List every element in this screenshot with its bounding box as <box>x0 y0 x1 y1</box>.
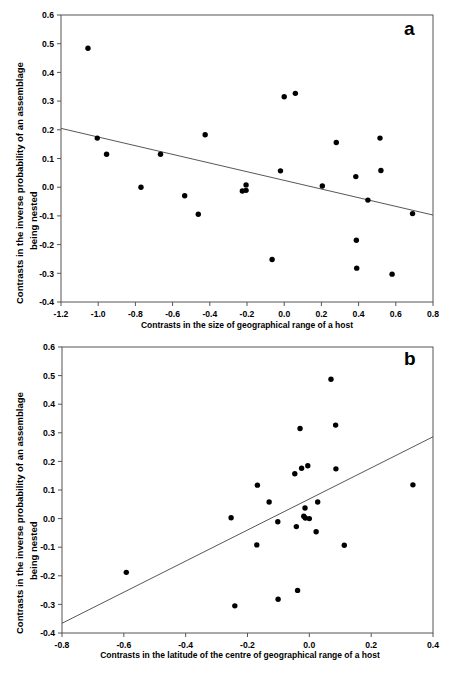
data-point <box>269 257 274 262</box>
data-point <box>232 603 237 608</box>
plot-frame <box>62 347 433 633</box>
data-point <box>275 597 280 602</box>
data-point <box>254 542 259 547</box>
data-point <box>294 524 299 529</box>
data-point <box>293 91 298 96</box>
panel-letter-b: b <box>404 348 416 370</box>
data-point <box>328 377 333 382</box>
y-tick-label: -0.4 <box>40 628 55 638</box>
data-point <box>202 132 207 137</box>
data-point <box>353 174 358 179</box>
data-points <box>85 46 415 277</box>
x-tick-label: 0.6 <box>390 309 402 319</box>
y-tick-label: 0.6 <box>42 10 54 20</box>
x-tick-label: -0.6 <box>165 309 180 319</box>
data-points <box>124 377 416 609</box>
data-point <box>282 94 287 99</box>
data-point <box>342 542 347 547</box>
x-tick-label: -0.2 <box>240 309 255 319</box>
data-point <box>389 271 394 276</box>
y-tick-label: -0.1 <box>39 211 54 221</box>
x-tick-label: -0.6 <box>116 640 131 650</box>
y-tick-label: 0.1 <box>42 154 54 164</box>
x-tick-label: 0.2 <box>365 640 377 650</box>
data-point <box>85 46 90 51</box>
y-axis-title-a-line2: being nested <box>28 191 39 250</box>
y-axis-title-b-line2: being nested <box>28 521 39 580</box>
regression-line <box>61 128 433 215</box>
data-point <box>313 529 318 534</box>
x-tick-label: -0.4 <box>202 309 217 319</box>
data-point <box>333 466 338 471</box>
y-axis-title-a-line1: Contrasts in the inverse probability of … <box>14 62 25 304</box>
data-point <box>365 197 370 202</box>
data-point <box>354 238 359 243</box>
data-point <box>302 505 307 510</box>
data-point <box>354 265 359 270</box>
data-point <box>299 466 304 471</box>
y-tick-label: 0.5 <box>43 371 55 381</box>
plot-frame <box>61 15 433 302</box>
y-tick-label: -0.3 <box>40 600 55 610</box>
x-axis-ticks: -1.2-1.0-0.8-0.6-0.4-0.20.00.20.40.60.8 <box>54 302 440 319</box>
y-tick-label: 0.4 <box>43 399 55 409</box>
y-tick-label: 0.3 <box>42 96 54 106</box>
data-point <box>410 482 415 487</box>
y-tick-label: -0.3 <box>39 269 54 279</box>
data-point <box>124 570 129 575</box>
y-tick-label: 0.0 <box>42 182 54 192</box>
data-point <box>378 168 383 173</box>
x-axis-ticks: -0.8-0.6-0.4-0.20.00.20.4 <box>55 633 440 650</box>
data-point <box>410 211 415 216</box>
data-point <box>315 499 320 504</box>
data-point <box>334 140 339 145</box>
data-point <box>266 499 271 504</box>
data-point <box>228 515 233 520</box>
data-point <box>333 422 338 427</box>
y-tick-label: 0.4 <box>42 68 54 78</box>
data-point <box>292 471 297 476</box>
data-point <box>278 168 283 173</box>
data-point <box>95 135 100 140</box>
data-point <box>240 188 245 193</box>
x-axis-title-b: Contrasts in the latitude of the centre … <box>40 650 440 660</box>
data-point <box>158 151 163 156</box>
x-tick-label: 0.2 <box>315 309 327 319</box>
y-tick-label: 0.1 <box>43 485 55 495</box>
y-tick-label: -0.4 <box>39 297 54 307</box>
y-tick-label: 0.2 <box>43 457 55 467</box>
data-point <box>255 482 260 487</box>
y-axis-ticks: -0.4-0.3-0.2-0.10.00.10.20.30.40.50.6 <box>40 342 62 638</box>
data-point <box>182 193 187 198</box>
y-axis-ticks: -0.4-0.3-0.2-0.10.00.10.20.30.40.50.6 <box>39 10 61 307</box>
y-tick-label: 0.2 <box>42 125 54 135</box>
y-tick-label: -0.2 <box>40 571 55 581</box>
scatter-plot-a: -0.4-0.3-0.2-0.10.00.10.20.30.40.50.6-1.… <box>0 0 453 340</box>
x-tick-label: -1.0 <box>91 309 106 319</box>
y-axis-title-b-line1: Contrasts in the inverse probability of … <box>14 392 25 634</box>
data-point <box>297 426 302 431</box>
x-tick-label: -0.8 <box>128 309 143 319</box>
x-tick-label: -0.8 <box>55 640 70 650</box>
x-tick-label: 0.4 <box>427 640 439 650</box>
data-point <box>295 588 300 593</box>
x-tick-label: 0.0 <box>303 640 315 650</box>
panel-letter-a: a <box>404 18 415 40</box>
y-tick-label: 0.6 <box>43 342 55 352</box>
data-point <box>320 183 325 188</box>
data-point <box>243 182 248 187</box>
data-point <box>138 185 143 190</box>
y-tick-label: -0.1 <box>40 542 55 552</box>
data-point <box>307 516 312 521</box>
data-point <box>196 211 201 216</box>
scatter-plot-b: -0.4-0.3-0.2-0.10.00.10.20.30.40.50.6-0.… <box>0 337 453 677</box>
x-tick-label: 0.0 <box>278 309 290 319</box>
y-tick-label: 0.0 <box>43 514 55 524</box>
y-tick-label: -0.2 <box>39 240 54 250</box>
regression-line <box>62 437 433 623</box>
panel-b: -0.4-0.3-0.2-0.10.00.10.20.30.40.50.6-0.… <box>0 337 453 677</box>
x-tick-label: -0.2 <box>240 640 255 650</box>
y-tick-label: 0.5 <box>42 39 54 49</box>
x-tick-label: 0.4 <box>353 309 365 319</box>
data-point <box>377 135 382 140</box>
